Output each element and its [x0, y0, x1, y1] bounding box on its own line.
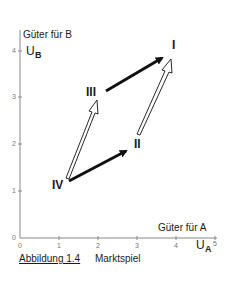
- svg-text:0: 0: [18, 242, 22, 249]
- x-axis-title: Güter für A: [158, 222, 207, 233]
- svg-text:1: 1: [12, 187, 16, 194]
- point-label-ii: II: [134, 137, 141, 151]
- chart: 0 1 2 3 4 5 0 1 2 3 4 Güter für B U B Gü…: [0, 0, 229, 286]
- svg-text:2: 2: [96, 242, 100, 249]
- y-axis-symbol-sub: B: [35, 50, 42, 60]
- figure-caption: Abbildung 1.4 Marktspiel: [19, 253, 141, 264]
- y-axis-title: Güter für B: [23, 29, 72, 40]
- figure-number: Abbildung 1.4: [19, 253, 80, 264]
- svg-text:5: 5: [213, 240, 217, 247]
- solid-arrow-iii-to-i: [106, 58, 162, 91]
- point-label-i: I: [172, 38, 175, 52]
- svg-text:2: 2: [12, 140, 16, 147]
- y-axis-symbol: U: [26, 44, 35, 58]
- svg-text:1: 1: [57, 242, 61, 249]
- svg-text:3: 3: [12, 93, 16, 100]
- x-axis-symbol: U: [196, 238, 205, 252]
- svg-text:0: 0: [12, 234, 16, 241]
- figure-title: Marktspiel: [95, 253, 141, 264]
- point-label-iv: IV: [52, 178, 63, 192]
- svg-text:3: 3: [135, 242, 139, 249]
- x-axis-symbol-sub: A: [205, 244, 212, 254]
- svg-text:4: 4: [174, 242, 178, 249]
- svg-text:4: 4: [12, 47, 16, 54]
- point-label-iii: III: [86, 85, 96, 99]
